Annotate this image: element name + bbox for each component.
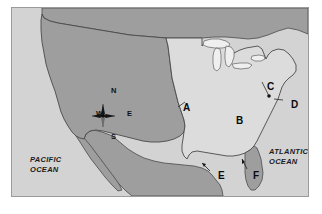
map-label-a: A [183,103,190,113]
lake-michigan [213,48,221,71]
compass-south-label: S [111,133,116,141]
atlantic-ocean-label: ATLANTIC OCEAN [269,147,308,167]
leader-dot-c [267,94,271,98]
compass-east-label: E [127,110,132,118]
map-label-f: F [253,171,259,181]
map-label-d: D [291,100,298,110]
map-label-e: E [218,171,225,181]
map-label-b: B [236,116,243,126]
compass-west-label: W [96,110,103,118]
lake-erie [232,63,252,69]
map-frame: N S W E PACIFIC OCEAN ATLANTIC OCEAN A B… [11,7,309,197]
map-label-c: C [267,82,274,92]
compass-north-label: N [111,87,117,95]
lake-ontario [251,55,265,61]
screenshot-stage: N S W E PACIFIC OCEAN ATLANTIC OCEAN A B… [0,0,322,214]
pacific-ocean-label: PACIFIC OCEAN [30,155,62,175]
compass-rose: N S W E [96,87,134,141]
